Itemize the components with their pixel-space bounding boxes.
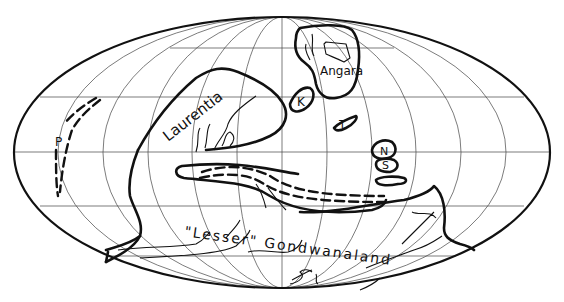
paleogeographic-world-map: Laurentia "Lesser" Gondwanaland Angara K…	[0, 0, 564, 302]
label-angara: Angara	[320, 64, 363, 78]
p-arc	[56, 98, 100, 196]
elongate-island	[376, 177, 406, 186]
label-s: S	[382, 159, 389, 172]
label-t: T	[338, 118, 346, 131]
label-p: P	[55, 135, 62, 149]
label-gondwanaland: "Lesser" Gondwanaland	[184, 223, 394, 268]
label-n: N	[380, 145, 388, 158]
label-k: K	[297, 95, 306, 109]
